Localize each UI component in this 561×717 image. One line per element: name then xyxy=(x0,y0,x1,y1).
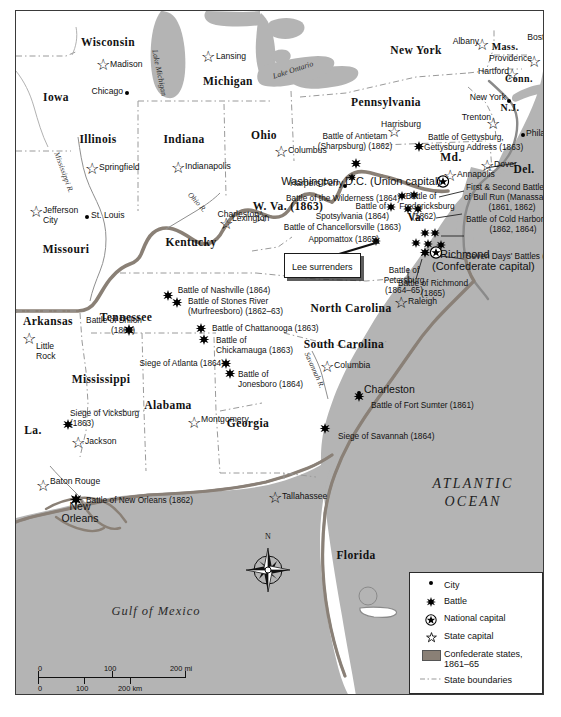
legend-label-state-capital: State capital xyxy=(444,631,494,642)
map-frame: ☆ ☆ ☆ ☆ ☆ ☆ ☆ ☆ ☆ ☆ ☆ ☆ ☆ ☆ ☆ ☆ ☆ ☆ ☆ ☆ … xyxy=(15,10,544,695)
legend-row-confederate-states: Confederate states, 1861–65 xyxy=(418,649,536,670)
confederate-swatch-icon xyxy=(418,649,444,661)
battle-star-icon xyxy=(418,596,444,607)
legend-label-confederate-l2: 1861–65 xyxy=(444,659,523,670)
scale-label-km-0: 0 xyxy=(38,684,42,693)
scale-label-mi-0: 0 xyxy=(38,664,42,673)
legend-row-battle: Battle xyxy=(418,596,536,607)
scale-label-mi-200: 200 mi xyxy=(170,664,192,673)
state-capital-star-icon xyxy=(418,631,444,643)
dashed-line-icon xyxy=(418,675,444,682)
legend-row-national-capital: National capital xyxy=(418,613,536,626)
legend-label-state-boundaries: State boundaries xyxy=(444,675,512,686)
legend-label-confederate-l1: Confederate states, xyxy=(444,649,523,660)
legend-label-battle: Battle xyxy=(444,596,467,607)
legend-row-city: City xyxy=(418,580,536,591)
legend-label-national-capital: National capital xyxy=(444,613,506,624)
map-legend: City Battle National capital State capit… xyxy=(409,572,543,694)
lake-okeechobee xyxy=(359,587,377,605)
legend-row-state-boundaries: State boundaries xyxy=(418,675,536,686)
national-capital-icon xyxy=(418,613,444,626)
scale-label-mi-100: 100 xyxy=(104,664,116,673)
scale-label-km-200: 200 km xyxy=(118,684,142,693)
scale-tick-km-0 xyxy=(38,677,39,684)
legend-row-state-capital: State capital xyxy=(418,631,536,643)
compass-rose: N xyxy=(241,532,295,598)
lee-surrenders-label: Lee surrenders xyxy=(292,262,353,272)
scale-label-km-100: 100 xyxy=(76,684,88,693)
compass-star-icon xyxy=(241,543,295,597)
legend-label-city: City xyxy=(444,580,460,591)
scale-tick-km-200 xyxy=(130,677,131,684)
civil-war-map: ☆ ☆ ☆ ☆ ☆ ☆ ☆ ☆ ☆ ☆ ☆ ☆ ☆ ☆ ☆ ☆ ☆ ☆ ☆ ☆ … xyxy=(0,0,561,717)
scale-tick-km-100 xyxy=(84,677,85,684)
lee-surrenders-callout[interactable]: Lee surrenders xyxy=(284,253,361,278)
compass-north-label: N xyxy=(265,532,271,541)
city-dot-icon xyxy=(418,580,444,585)
